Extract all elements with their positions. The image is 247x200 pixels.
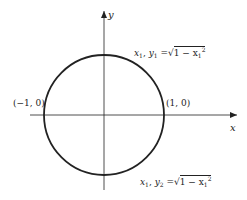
eq-sub: 1 — [154, 52, 158, 59]
x-axis-label: x — [230, 123, 236, 133]
upper-semicircle-equation: x1, y1 =√1 − x12 — [134, 47, 205, 59]
eq-sub: 1 — [204, 181, 208, 188]
radicand-text: 1 − x — [180, 177, 204, 187]
eq-sub: 1 — [198, 52, 202, 59]
eq-sub: 1 — [145, 181, 149, 188]
lower-semicircle-equation: x1, y2 =√1 − x12 — [140, 176, 211, 188]
eq-sub: 1 — [139, 52, 143, 59]
point-label-1-0: (1, 0) — [166, 99, 190, 108]
eq-sign: = — [166, 177, 174, 187]
eq-sub: 2 — [160, 181, 164, 188]
eq-sup: 2 — [208, 175, 212, 182]
eq-sign: = — [160, 48, 168, 58]
radicand-text: 1 − x — [174, 48, 198, 58]
eq-sup: 2 — [202, 46, 206, 53]
radicand: 1 − x12 — [180, 175, 212, 187]
radicand: 1 − x12 — [174, 46, 206, 58]
y-axis-label: y — [108, 10, 114, 20]
point-label-neg1-0: (−1, 0) — [13, 99, 45, 108]
